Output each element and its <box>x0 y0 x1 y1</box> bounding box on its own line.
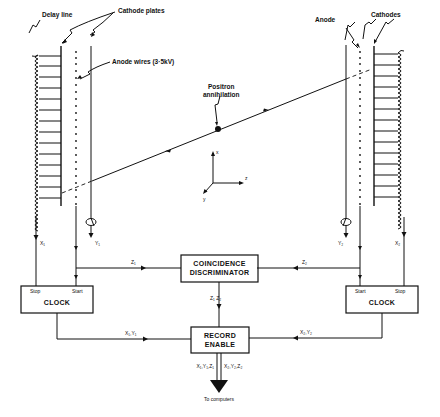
left-y-pickup-loop <box>86 219 96 226</box>
left-cathode-strips <box>39 56 61 198</box>
label-x2y2z2: X₂,Y₂,Z₂ <box>224 363 242 369</box>
right-clock-stop-port: Stop <box>395 288 406 294</box>
label-delay-line: Delay line <box>42 11 73 19</box>
label-x1: X₁ <box>40 240 45 246</box>
axis-x-label: x <box>216 149 219 155</box>
record-enable-block: RECORD ENABLE <box>191 327 249 353</box>
label-x1y1z1: X₁,Y₁,Z₁ <box>196 363 214 369</box>
right-clock-block: Start Stop CLOCK <box>346 286 418 313</box>
label-z2: Z₂ <box>302 259 307 265</box>
annihilation-point <box>215 126 221 132</box>
coincidence-discriminator-block: COINCIDENCE DISCRIMINATOR <box>181 255 258 282</box>
label-positron: Positron <box>208 83 234 90</box>
left-detector <box>32 46 96 231</box>
coincidence-line1: COINCIDENCE <box>193 260 245 267</box>
label-z1z2: Z₁ Z₂ <box>210 295 221 301</box>
left-clock-start-port: Start <box>72 288 83 294</box>
left-clock-block: Stop Start CLOCK <box>21 286 93 313</box>
right-clock-title: CLOCK <box>369 299 395 306</box>
cathodes-leader <box>363 19 376 39</box>
anode-wires-leader <box>80 62 110 79</box>
axis-z-label: z <box>245 175 248 181</box>
output-arrow <box>210 353 228 393</box>
label-x2: X₂ <box>395 240 400 246</box>
left-anode-wires <box>75 51 77 205</box>
label-z1: Z₁ <box>131 259 136 265</box>
left-clock-title: CLOCK <box>44 299 70 306</box>
record-line2: ENABLE <box>205 341 236 348</box>
right-cathode-strips <box>374 54 398 197</box>
label-x2y2: X₂,Y₂ <box>300 329 312 335</box>
label-cathode-plates: Cathode plates <box>118 7 165 15</box>
label-anode: Anode <box>315 16 336 23</box>
right-clock-start-port: Start <box>355 288 366 294</box>
label-x1y1: X₁,Y₁ <box>125 330 137 336</box>
right-signal-lines: X₂ Y₂ Z₂ <box>257 206 407 286</box>
left-clock-stop-port: Stop <box>30 288 41 294</box>
left-delay-line-coil <box>32 55 38 231</box>
label-annihilation: annihilation <box>203 91 240 98</box>
label-y2: Y₂ <box>338 240 343 246</box>
label-anode-wires: Anode wires (3·5kV) <box>112 58 174 66</box>
label-y1: Y₁ <box>95 240 100 246</box>
record-line1: RECORD <box>204 332 236 339</box>
pet-detector-diagram: Delay line Cathode plates Anode wires (3… <box>0 0 440 417</box>
axis-y-label: y <box>203 196 206 202</box>
right-y-pickup-loop <box>341 219 351 226</box>
right-detector <box>341 45 404 229</box>
label-to-computers: To computers <box>204 396 235 402</box>
left-signal-lines: X₁ Y₁ Z₁ <box>34 206 167 286</box>
positron-leader <box>215 96 220 122</box>
right-delay-line-coil <box>398 50 404 229</box>
label-cathodes: Cathodes <box>371 11 401 18</box>
delay-line-leader <box>29 20 40 33</box>
coordinate-axes: x z y <box>203 149 248 202</box>
coincidence-line2: DISCRIMINATOR <box>190 269 250 276</box>
